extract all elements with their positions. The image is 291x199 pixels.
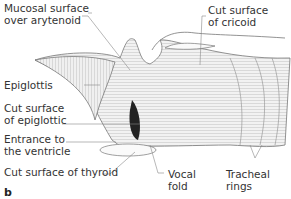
- larynx-diagram: Mucosal surface over arytenoid Cut surfa…: [0, 0, 291, 199]
- label-cut-epiglottic: Cut surfaceof epiglottic: [4, 102, 66, 126]
- label-tracheal-rings: Tracheal rings: [226, 168, 270, 192]
- label-mucosal-surface: Mucosal surface over arytenoid: [4, 2, 89, 26]
- label-epiglottis: Epiglottis: [4, 79, 53, 91]
- larynx-body: [35, 39, 290, 147]
- label-ventricle-entrance: Entrance to the ventricle: [4, 133, 70, 157]
- label-vocal-fold: Vocal fold: [168, 168, 196, 192]
- label-thyroid: Cut surface of thyroid: [4, 166, 118, 178]
- panel-label: b: [4, 186, 12, 199]
- label-cricoid: Cut surface of cricoid: [208, 4, 268, 28]
